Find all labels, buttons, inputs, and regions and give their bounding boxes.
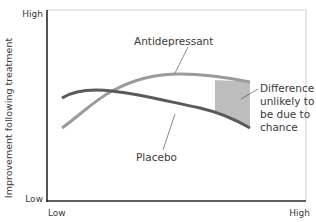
chart: High Low Low High Improvement following … xyxy=(0,0,316,222)
placebo-leader-line xyxy=(163,114,175,150)
antidepressant-label: Antidepressant xyxy=(134,35,213,47)
annotation-line-4: chance xyxy=(260,121,298,133)
annotation-line-1: Difference xyxy=(260,82,314,94)
antidepressant-leader-line xyxy=(175,47,188,73)
annotation-line-3: be due to xyxy=(260,108,310,120)
x-high-label: High xyxy=(289,208,310,218)
difference-shaded-region xyxy=(215,80,250,128)
placebo-label: Placebo xyxy=(136,151,177,163)
y-low-label: Low xyxy=(25,194,43,204)
chart-svg: High Low Low High Improvement following … xyxy=(0,0,316,222)
y-high-label: High xyxy=(22,9,43,19)
annotation-line-2: unlikely to xyxy=(260,95,314,107)
x-low-label: Low xyxy=(48,208,66,218)
y-axis-title: Improvement following treatment xyxy=(3,38,14,199)
